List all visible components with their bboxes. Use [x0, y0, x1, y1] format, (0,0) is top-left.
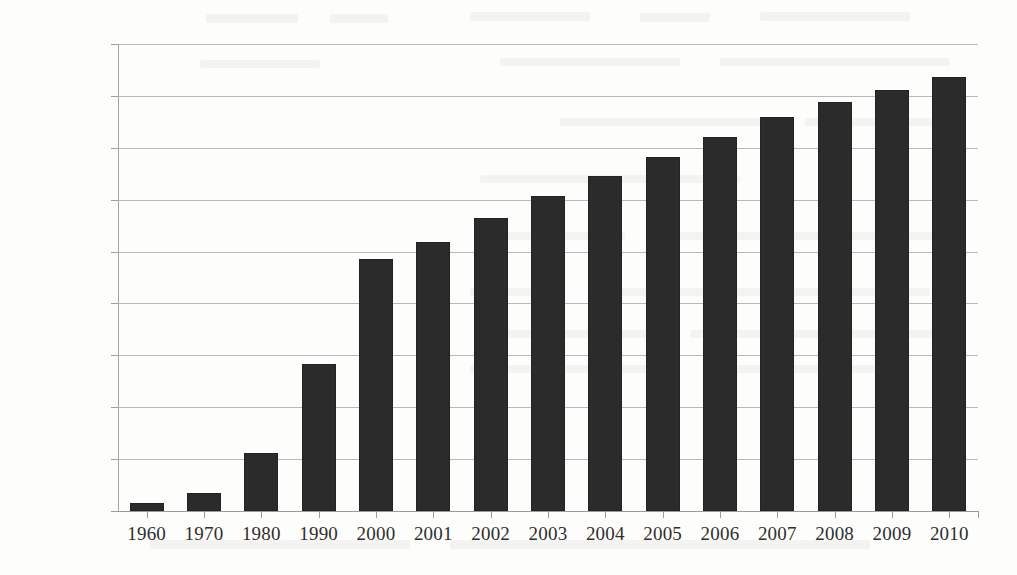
x-axis-label: 1980 [242, 523, 281, 545]
x-tick-group: 2000 [347, 44, 404, 511]
x-tick-group: 1990 [290, 44, 347, 511]
scan-artifact [760, 12, 910, 21]
x-axis-label: 2007 [758, 523, 797, 545]
x-tick-group: 2006 [691, 44, 748, 511]
x-tick-mark [319, 511, 320, 518]
x-tick-group: 2008 [806, 44, 863, 511]
x-tick-mark [204, 511, 205, 518]
x-tick-mark [147, 511, 148, 518]
y-tick-mark [111, 148, 118, 149]
x-tick-group: 2002 [462, 44, 519, 511]
x-axis-label: 1970 [185, 523, 224, 545]
x-tick-mark [978, 511, 979, 518]
x-tick-mark [720, 511, 721, 518]
x-tick-group: 1970 [175, 44, 232, 511]
chart-page: $-$1,000$2,000$3,000$4,000$5,000$6,000$7… [0, 0, 1017, 575]
y-tick-mark [111, 252, 118, 253]
x-tick-mark [605, 511, 606, 518]
x-axis-label: 1960 [127, 523, 166, 545]
y-tick-mark [111, 44, 118, 45]
x-axis-label: 2003 [529, 523, 568, 545]
y-tick-mark [111, 200, 118, 201]
x-tick-mark [949, 511, 950, 518]
x-tick-group: 2004 [577, 44, 634, 511]
y-tick-mark [111, 355, 118, 356]
x-tick-mark [777, 511, 778, 518]
x-tick-mark [663, 511, 664, 518]
x-tick-group: 2007 [749, 44, 806, 511]
x-tick-mark [261, 511, 262, 518]
y-tick-mark [111, 96, 118, 97]
y-tick-mark [111, 511, 118, 512]
x-tick-group: 1980 [233, 44, 290, 511]
x-tick-group: 2001 [405, 44, 462, 511]
x-tick-mark [892, 511, 893, 518]
x-axis-label: 2002 [471, 523, 510, 545]
x-tick-mark [491, 511, 492, 518]
x-axis-label: 2008 [815, 523, 854, 545]
x-tick-group: 2003 [519, 44, 576, 511]
x-tick-mark [835, 511, 836, 518]
x-tick-group: 2005 [634, 44, 691, 511]
plot-area: $-$1,000$2,000$3,000$4,000$5,000$6,000$7… [118, 44, 978, 511]
x-axis-label: 2009 [873, 523, 912, 545]
scan-artifact [206, 14, 298, 23]
x-axis-label: 2004 [586, 523, 625, 545]
x-axis-label: 2001 [414, 523, 453, 545]
x-axis-label: 2005 [643, 523, 682, 545]
scan-artifact [330, 14, 388, 23]
x-tick-group: 2009 [863, 44, 920, 511]
x-tick-group: 1960 [118, 44, 175, 511]
x-axis-label: 2000 [357, 523, 396, 545]
x-tick-mark [376, 511, 377, 518]
x-axis-label: 2010 [930, 523, 969, 545]
scan-artifact [470, 12, 590, 21]
x-tick-mark [433, 511, 434, 518]
x-axis-label: 2006 [701, 523, 740, 545]
y-tick-mark [111, 303, 118, 304]
scan-artifact [640, 13, 710, 22]
x-tick-group: 2010 [921, 44, 978, 511]
y-tick-mark [111, 407, 118, 408]
x-axis-label: 1990 [299, 523, 338, 545]
x-tick-mark [548, 511, 549, 518]
y-tick-mark [111, 459, 118, 460]
